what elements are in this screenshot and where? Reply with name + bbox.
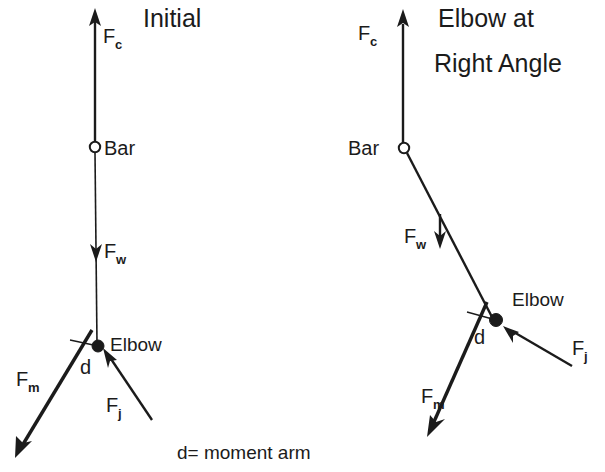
panel-right-angle: Elbow at Right Angle F c Bar F w Elbow d… [348, 4, 588, 437]
free-body-diagram-svg: Initial F c Bar F w Elbow d F m F j [0, 0, 605, 472]
force-w-subscript-left: w [115, 252, 127, 267]
elbow-label-left: Elbow [110, 334, 162, 355]
bar-joint-marker-left [90, 142, 100, 152]
force-c-subscript-right: c [370, 34, 377, 49]
figure-canvas: Initial F c Bar F w Elbow d F m F j [0, 0, 605, 472]
force-c-label-left: F [103, 25, 115, 47]
bar-label-left: Bar [104, 137, 135, 159]
force-m-arrowhead-left [15, 436, 32, 458]
force-j-subscript-left: j [117, 406, 122, 421]
panel-initial-title: Initial [143, 4, 201, 32]
bar-label-right: Bar [348, 137, 379, 159]
force-m-label-left: F [16, 368, 28, 390]
force-j-label-right: F [572, 337, 584, 359]
forearm-segment-right [407, 153, 492, 317]
force-w-subscript-right: w [415, 237, 427, 252]
bar-joint-marker-right [399, 143, 409, 153]
panel-right-angle-title-line2: Right Angle [434, 49, 562, 77]
force-w-label-left: F [104, 240, 116, 262]
force-w-label-right: F [404, 225, 416, 247]
force-m-label-right: F [421, 385, 433, 407]
moment-arm-label-right: d [474, 326, 485, 348]
force-c-label-right: F [358, 22, 370, 44]
figure-caption: d= moment arm [177, 442, 311, 463]
panel-initial: Initial F c Bar F w Elbow d F m F j [15, 4, 201, 458]
moment-arm-label-left: d [80, 356, 91, 378]
elbow-label-right: Elbow [512, 289, 564, 310]
force-c-subscript-left: c [115, 37, 122, 52]
force-m-subscript-left: m [28, 380, 40, 395]
force-m-subscript-right: m [433, 397, 445, 412]
force-j-label-left: F [106, 394, 118, 416]
force-j-subscript-right: j [583, 349, 588, 364]
panel-right-angle-title-line1: Elbow at [438, 4, 534, 32]
force-j-line-right [512, 331, 572, 366]
